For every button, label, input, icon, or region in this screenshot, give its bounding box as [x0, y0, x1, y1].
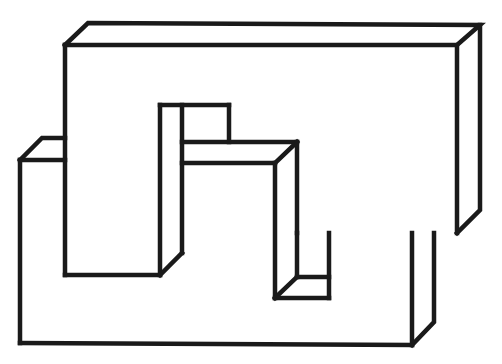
notch — [160, 105, 229, 142]
upper-block-front-face-edge — [65, 45, 457, 233]
lower-block-bottom-edge-edge — [20, 343, 412, 345]
lower-block-right-face-edge — [412, 233, 434, 345]
middle-block-bevel-edge — [275, 142, 297, 163]
lower-notch-bevel-edge — [275, 277, 297, 298]
lower-notch — [275, 233, 329, 298]
upper-block-top-face-edge — [65, 23, 480, 45]
block-outlines — [20, 23, 480, 345]
upper-block — [65, 23, 480, 233]
lower-block-left-top-edge — [20, 138, 65, 160]
upper-block-right-face-edge — [457, 25, 480, 233]
lower-block — [20, 138, 434, 345]
interlocking-blocks-diagram — [0, 0, 502, 364]
middle-block — [182, 142, 297, 298]
inner-bar-bevel-edge — [160, 253, 182, 275]
inner-bar — [65, 45, 182, 275]
